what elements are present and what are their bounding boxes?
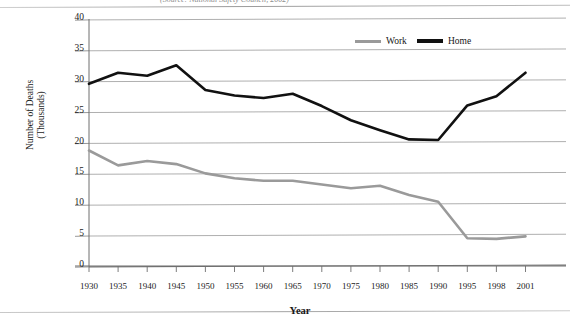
y-tick-label-5: 5 xyxy=(62,228,84,238)
gridline-15 xyxy=(89,172,566,174)
y-axis-title: Number of Deaths (Thousands) xyxy=(25,60,47,170)
series-line-work xyxy=(89,151,526,239)
x-axis-title: Year xyxy=(0,305,570,316)
x-tick-label-2001: 2001 xyxy=(509,281,543,291)
gridline-5 xyxy=(89,234,566,236)
gridline-20 xyxy=(89,142,566,144)
chart-legend: Work Home xyxy=(355,36,471,46)
gridline-25 xyxy=(89,111,566,113)
legend-swatch-home-icon xyxy=(417,39,443,43)
legend-entry-work: Work xyxy=(355,36,407,46)
gridline-40 xyxy=(89,18,566,20)
y-axis-title-line2: (Thousands) xyxy=(36,60,47,170)
legend-label-home: Home xyxy=(448,36,471,46)
legend-swatch-work-icon xyxy=(355,40,381,43)
y-tick-label-15: 15 xyxy=(62,166,84,176)
y-tick-label-35: 35 xyxy=(62,43,84,53)
gridline-35 xyxy=(89,49,566,51)
y-tick-label-40: 40 xyxy=(62,12,84,22)
chart-page: (Source: National Safety Council, 2002) … xyxy=(0,0,570,334)
series-line-home xyxy=(89,65,526,140)
y-tick-label-0: 0 xyxy=(62,259,84,269)
gridline-10 xyxy=(89,203,566,205)
y-tick-label-30: 30 xyxy=(62,74,84,84)
y-tick-label-10: 10 xyxy=(62,197,84,207)
y-tick-label-20: 20 xyxy=(62,136,84,146)
gridlines-group xyxy=(75,18,566,267)
y-tick-label-25: 25 xyxy=(62,105,84,115)
legend-entry-home: Home xyxy=(417,36,471,46)
gridline-30 xyxy=(89,80,566,82)
legend-label-work: Work xyxy=(386,36,407,46)
y-axis-title-line1: Number of Deaths xyxy=(25,60,36,170)
